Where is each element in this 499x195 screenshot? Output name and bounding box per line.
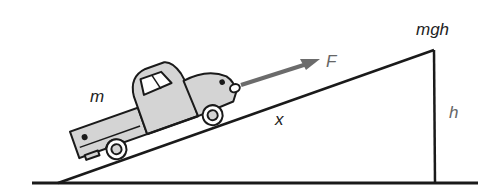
distance-label: x: [274, 110, 284, 129]
force-label: F: [326, 52, 338, 71]
mass-label: m: [90, 87, 104, 106]
force-arrow-icon: [241, 59, 320, 85]
energy-label: mgh: [416, 20, 449, 39]
incline-diagram: m F x h mgh: [0, 0, 499, 195]
truck-icon: [59, 41, 249, 171]
height-label: h: [449, 103, 458, 122]
height-line: [434, 50, 435, 183]
